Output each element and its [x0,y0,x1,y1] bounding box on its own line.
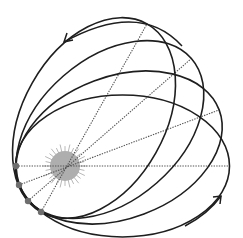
sun-ray [68,145,70,153]
sun-ray [51,149,56,155]
sun-ray [78,156,85,159]
sun-ray [74,177,79,183]
orbit-4-major-axis [41,24,147,212]
sun-ray [60,145,62,153]
orbit-2-perihelion-dot [16,182,22,188]
precession-arrows [64,22,221,226]
perihelion-points [13,163,44,215]
sun-ray [78,172,85,175]
sun-ray [60,180,62,188]
orbit-4-perihelion-dot [38,209,44,215]
major-axes [16,24,229,212]
orbit-precession-diagram [0,0,243,238]
orbit-3-perihelion-dot [25,198,31,204]
sun-icon [43,145,87,188]
sun-ray [68,180,70,188]
sun-core [50,151,80,181]
orbit-1-perihelion-dot [13,163,19,169]
sun-ray [45,156,52,159]
orbits [0,0,243,238]
